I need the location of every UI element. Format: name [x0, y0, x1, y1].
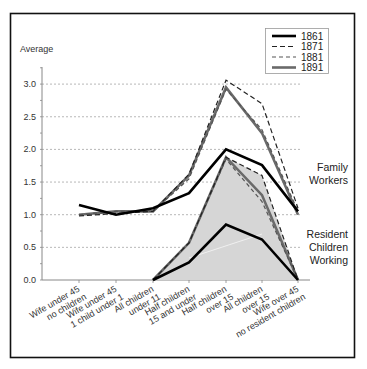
- legend-label-1861: 1861: [301, 31, 324, 42]
- resident-children-label: Resident: [307, 228, 349, 240]
- y-tick-label: 1.5: [23, 177, 36, 187]
- y-tick-label: 2.5: [23, 112, 36, 122]
- y-tick-label: 2.0: [23, 144, 36, 154]
- resident-children-label: Children: [309, 241, 348, 253]
- family-workers-label: Family: [317, 161, 349, 173]
- legend-label-1881: 1881: [301, 52, 324, 63]
- legend-label-1871: 1871: [301, 41, 324, 52]
- legend: 1861187118811891: [266, 29, 329, 74]
- y-axis-label: Average: [20, 44, 53, 54]
- y-tick-label: 0.0: [23, 275, 36, 285]
- y-tick-label: 1.0: [23, 210, 36, 220]
- legend-label-1891: 1891: [301, 62, 324, 73]
- resident-children-label: Working: [310, 254, 348, 266]
- y-tick-label: 3.0: [23, 79, 36, 89]
- chart: Average 0.00.51.01.52.02.53.0 Wife under…: [0, 0, 367, 369]
- y-tick-label: 0.5: [23, 242, 36, 252]
- family-workers-label: Workers: [309, 174, 348, 186]
